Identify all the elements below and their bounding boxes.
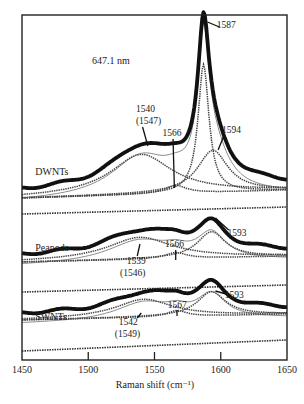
sample-label-swnts: SWNTs [35, 311, 67, 322]
x-tick-label: 1600 [211, 364, 231, 375]
peak-label: 1593 [227, 228, 246, 238]
peak-label: 1539 [127, 256, 146, 266]
x-axis-label: Raman shift (cm⁻¹) [116, 379, 194, 391]
peak-label: (1549) [115, 329, 140, 340]
x-tick-label: 1550 [145, 364, 165, 375]
peak-label: (1546) [120, 268, 145, 279]
x-tick-label: 1650 [277, 364, 297, 375]
baseline [22, 207, 287, 214]
measured-spectrum-swnts [22, 280, 287, 313]
fit-component-1587 [22, 65, 287, 198]
peak-label: 1567 [168, 300, 187, 310]
sample-label-peapods: Peapods [35, 242, 68, 253]
leader-line [137, 244, 140, 256]
peak-label: 1540 [136, 104, 155, 114]
measured-spectrum-dwnts [22, 12, 287, 188]
peak-label: 1566 [165, 239, 184, 249]
raman-spectra-chart: DWNTsPeapodsSWNTs 15871540(1547)15661594… [0, 0, 304, 404]
peak-label: 1587 [217, 20, 236, 30]
peak-label: 1593 [225, 290, 244, 300]
x-tick-label: 1450 [12, 364, 32, 375]
leader-line [218, 137, 223, 150]
peak-label: 1542 [119, 317, 138, 327]
peak-label: 1594 [222, 125, 241, 135]
leader-line [173, 139, 174, 188]
peak-label: (1547) [136, 116, 161, 127]
peak-label: 1566 [162, 128, 181, 138]
x-tick-label: 1500 [78, 364, 98, 375]
spectra-curves: DWNTsPeapodsSWNTs [22, 12, 287, 351]
chart-svg: DWNTsPeapodsSWNTs 15871540(1547)15661594… [0, 0, 304, 404]
excitation-wavelength-label: 647.1 nm [92, 55, 130, 66]
baseline [22, 340, 287, 351]
sample-label-dwnts: DWNTs [35, 166, 68, 177]
x-axis-ticks: 14501500155016001650 [12, 352, 297, 375]
